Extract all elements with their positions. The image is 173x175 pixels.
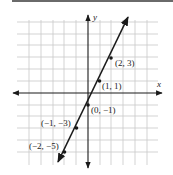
point-2-3 [109,56,113,60]
x-axis-label: x [156,79,161,89]
point-neg1-neg3 [75,126,79,130]
point-neg2-neg5 [63,150,67,154]
label-point-2-3: (2, 3) [115,58,135,68]
label-point-1-1: (1, 1) [102,81,122,91]
y-axis-label: y [92,12,97,22]
label-point-neg2-neg5: (−2, −5) [29,141,59,151]
point-0-neg1 [86,103,90,107]
label-point-neg1-neg3: (−1, −3) [41,118,71,128]
point-1-1 [98,79,102,83]
label-point-0-neg1: (0, −1) [91,105,116,115]
coordinate-plane: x y (2, 3) (1, 1) (0, −1) (−1, −3) (−2, … [0,0,173,175]
